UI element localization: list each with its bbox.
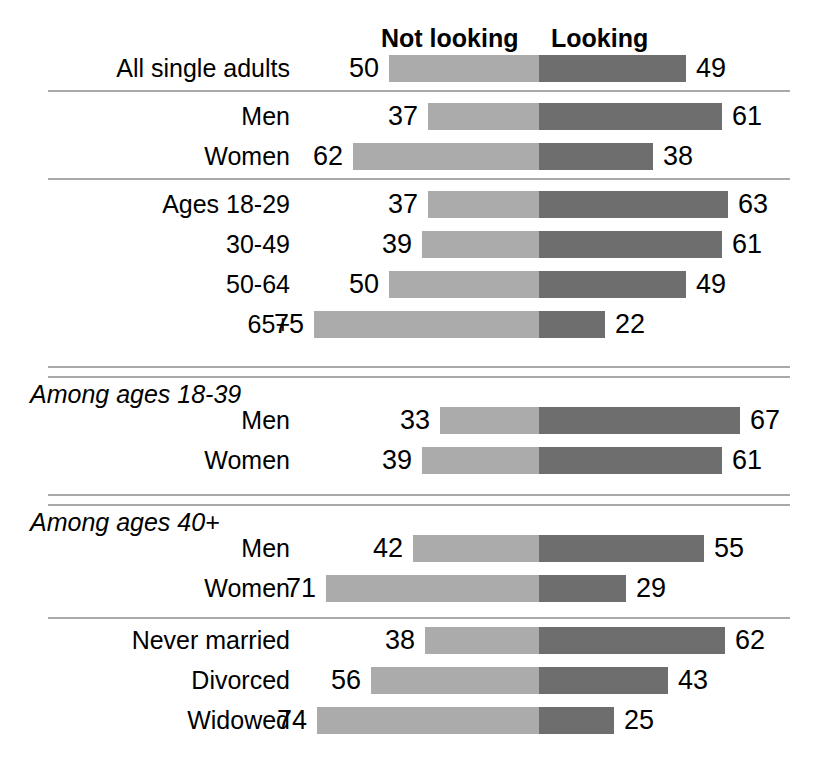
value-looking: 61 xyxy=(732,96,762,136)
group-separator xyxy=(48,617,790,619)
row-label: Women xyxy=(0,440,290,480)
value-not-looking: 42 xyxy=(373,528,403,568)
value-looking: 62 xyxy=(735,620,765,660)
chart-row: Men3367 xyxy=(0,400,816,440)
group-separator xyxy=(48,494,790,496)
bar-segment-not-looking xyxy=(389,55,539,82)
value-not-looking: 39 xyxy=(382,440,412,480)
chart-row: Divorced5643 xyxy=(0,660,816,700)
value-not-looking: 33 xyxy=(400,400,430,440)
row-label: All single adults xyxy=(0,48,290,88)
bar-segment-looking xyxy=(539,311,605,338)
value-not-looking: 37 xyxy=(388,184,418,224)
bar-segment-looking xyxy=(539,143,653,170)
bar-segment-looking xyxy=(539,535,704,562)
bar-segment-looking xyxy=(539,627,725,654)
bar-segment-not-looking xyxy=(422,447,539,474)
value-not-looking: 71 xyxy=(286,568,316,608)
bar-segment-not-looking xyxy=(413,535,539,562)
bar-segment-looking xyxy=(539,191,728,218)
chart-row: Men3761 xyxy=(0,96,816,136)
value-not-looking: 56 xyxy=(331,660,361,700)
bar-segment-not-looking xyxy=(314,311,539,338)
chart-row: All single adults5049 xyxy=(0,48,816,88)
bar-segment-not-looking xyxy=(440,407,539,434)
bar-segment-not-looking xyxy=(326,575,539,602)
chart-row: Women3961 xyxy=(0,440,816,480)
value-looking: 49 xyxy=(696,264,726,304)
bar-segment-not-looking xyxy=(353,143,539,170)
value-not-looking: 50 xyxy=(349,264,379,304)
group-separator xyxy=(48,504,790,506)
row-label: Women xyxy=(0,136,290,176)
row-label: 30-49 xyxy=(0,224,290,264)
chart-row: 30-493961 xyxy=(0,224,816,264)
bar-segment-looking xyxy=(539,231,722,258)
value-looking: 67 xyxy=(750,400,780,440)
chart-row: Women7129 xyxy=(0,568,816,608)
group-separator xyxy=(48,90,790,92)
value-looking: 61 xyxy=(732,224,762,264)
value-looking: 38 xyxy=(663,136,693,176)
row-label: Divorced xyxy=(0,660,290,700)
value-not-looking: 62 xyxy=(313,136,343,176)
bar-segment-looking xyxy=(539,667,668,694)
chart-row: 50-645049 xyxy=(0,264,816,304)
bar-segment-not-looking xyxy=(389,271,539,298)
bar-segment-not-looking xyxy=(425,627,539,654)
bar-segment-looking xyxy=(539,103,722,130)
chart-row: Never married3862 xyxy=(0,620,816,660)
group-separator xyxy=(48,366,790,368)
bar-segment-not-looking xyxy=(371,667,539,694)
value-not-looking: 75 xyxy=(274,304,304,344)
group-separator xyxy=(48,376,790,378)
value-looking: 25 xyxy=(624,700,654,740)
bar-segment-looking xyxy=(539,707,614,734)
chart-row: Men4255 xyxy=(0,528,816,568)
row-label: Men xyxy=(0,400,290,440)
value-not-looking: 74 xyxy=(277,700,307,740)
row-label: Women xyxy=(0,568,290,608)
bar-segment-not-looking xyxy=(422,231,539,258)
chart-row: Ages 18-293763 xyxy=(0,184,816,224)
value-looking: 29 xyxy=(636,568,666,608)
row-label: 65+ xyxy=(0,304,290,344)
chart-row: 65+7522 xyxy=(0,304,816,344)
diverging-bar-chart: Not lookingLookingAmong ages 18-39Among … xyxy=(0,0,816,778)
bar-segment-looking xyxy=(539,271,686,298)
bar-segment-looking xyxy=(539,575,626,602)
value-not-looking: 50 xyxy=(349,48,379,88)
value-looking: 63 xyxy=(738,184,768,224)
value-looking: 55 xyxy=(714,528,744,568)
bar-segment-looking xyxy=(539,55,686,82)
value-not-looking: 38 xyxy=(385,620,415,660)
row-label: Men xyxy=(0,528,290,568)
bar-segment-looking xyxy=(539,407,740,434)
value-not-looking: 39 xyxy=(382,224,412,264)
row-label: Widowed xyxy=(0,700,290,740)
bar-segment-not-looking xyxy=(317,707,539,734)
group-separator xyxy=(48,178,790,180)
chart-row: Widowed7425 xyxy=(0,700,816,740)
row-label: Men xyxy=(0,96,290,136)
row-label: 50-64 xyxy=(0,264,290,304)
value-looking: 61 xyxy=(732,440,762,480)
row-label: Never married xyxy=(0,620,290,660)
value-looking: 43 xyxy=(678,660,708,700)
value-looking: 22 xyxy=(615,304,645,344)
bar-segment-looking xyxy=(539,447,722,474)
value-not-looking: 37 xyxy=(388,96,418,136)
value-looking: 49 xyxy=(696,48,726,88)
bar-segment-not-looking xyxy=(428,191,539,218)
bar-segment-not-looking xyxy=(428,103,539,130)
chart-row: Women6238 xyxy=(0,136,816,176)
row-label: Ages 18-29 xyxy=(0,184,290,224)
